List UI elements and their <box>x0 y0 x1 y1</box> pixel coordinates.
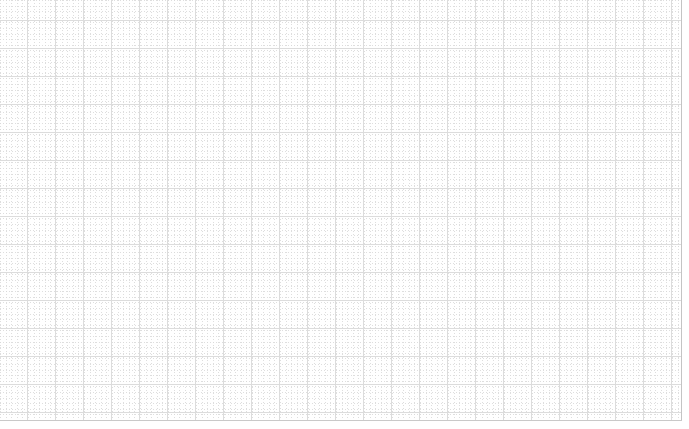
right-margin <box>682 0 689 429</box>
sheet-content-area[interactable] <box>0 0 682 421</box>
grid-paper-sheet[interactable] <box>0 0 682 421</box>
page-canvas <box>0 0 689 429</box>
bottom-margin <box>0 421 689 429</box>
